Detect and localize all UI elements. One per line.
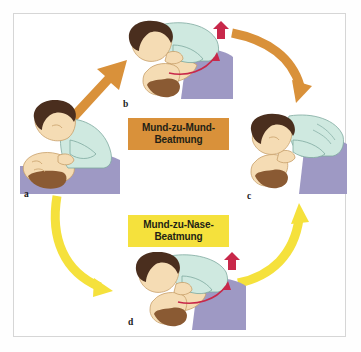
label-mouth-to-nose-line1: Mund-zu-Nase- bbox=[143, 219, 213, 232]
panel-b-letter: b bbox=[123, 100, 128, 110]
panel-d-letter: d bbox=[128, 318, 133, 328]
label-mouth-to-mouth-line2: Beatmung bbox=[154, 134, 202, 147]
chest-rise-arrow-icon bbox=[213, 21, 229, 39]
panel-c-letter: c bbox=[247, 192, 251, 202]
panel-b-illustration bbox=[117, 19, 235, 101]
panel-c-illustration bbox=[243, 112, 347, 196]
label-mouth-to-nose: Mund-zu-Nase- Beatmung bbox=[128, 215, 229, 247]
label-mouth-to-nose-line2: Beatmung bbox=[154, 231, 202, 244]
chest-rise-arrow-icon bbox=[224, 252, 240, 270]
label-mouth-to-mouth: Mund-zu-Mund- Beatmung bbox=[128, 118, 229, 150]
panel-d-illustration bbox=[124, 252, 248, 332]
panel-a-illustration bbox=[18, 96, 122, 196]
label-mouth-to-mouth-line1: Mund-zu-Mund- bbox=[142, 122, 215, 135]
figure-canvas: a bbox=[0, 0, 361, 352]
panel-a-letter: a bbox=[24, 190, 29, 200]
